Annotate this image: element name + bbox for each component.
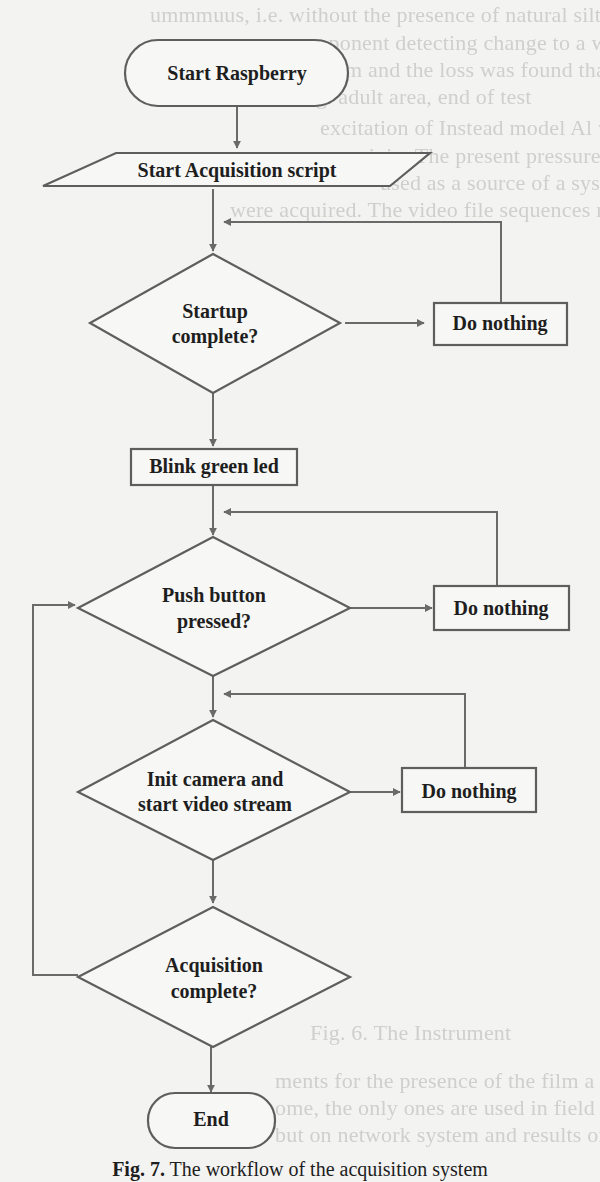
push-button-pressed-decision: [78, 537, 350, 676]
end-label: End: [193, 1108, 229, 1130]
push-button-label-line2: pressed?: [177, 610, 251, 633]
startup-complete-decision: [90, 254, 340, 393]
init-camera-label-line2: start video stream: [138, 793, 292, 815]
init-camera-label-line1: Init camera and: [147, 768, 284, 790]
push-button-label-line1: Push button: [162, 584, 266, 606]
init-camera-decision: [78, 720, 350, 860]
start-acquisition-script-label: Start Acquisition script: [138, 159, 337, 182]
do-nothing-camera-label: Do nothing: [421, 780, 516, 803]
figure-number: Fig. 7.: [112, 1158, 165, 1180]
startup-complete-label-line1: Startup: [182, 300, 248, 323]
acquisition-complete-decision: [78, 907, 350, 1047]
acquisition-complete-label-line2: complete?: [171, 980, 258, 1003]
loop-back-connector: [33, 605, 78, 975]
acquisition-complete-label-line1: Acquisition: [165, 954, 263, 977]
figure-caption-text: The workflow of the acquisition system: [170, 1158, 488, 1180]
blink-green-led-label: Blink green led: [149, 455, 279, 478]
figure-caption: Fig. 7. The workflow of the acquisition …: [0, 1158, 600, 1181]
flowchart: Start Raspberry Start Acquisition script…: [0, 0, 600, 1182]
startup-complete-label-line2: complete?: [172, 325, 259, 348]
do-nothing-button-label: Do nothing: [453, 597, 548, 620]
start-raspberry-label: Start Raspberry: [167, 62, 306, 85]
do-nothing-startup-label: Do nothing: [452, 312, 547, 335]
